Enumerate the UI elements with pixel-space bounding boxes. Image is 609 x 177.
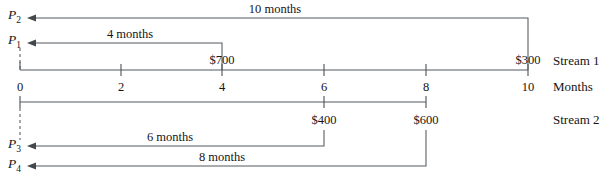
stream2-axis	[20, 96, 426, 108]
p1-arrowhead-icon	[27, 40, 36, 47]
stream2-caption: Stream 2	[553, 112, 600, 127]
p2-arrowhead-icon	[27, 15, 36, 22]
axis-unit-caption: Months	[553, 79, 593, 94]
stream1-tick-label-6: 6	[321, 80, 327, 94]
p4-arrowhead-icon	[27, 163, 36, 170]
p3-arrow-label: 6 months	[147, 130, 193, 144]
p1-arrow-path	[32, 43, 222, 70]
p3-arrow: 6 months P3	[7, 130, 324, 154]
stream1-axis: 0 2 4 6 8 10	[17, 62, 534, 94]
stream1-tick-label-8: 8	[423, 80, 429, 94]
stream1-tick-label-10: 10	[522, 80, 535, 94]
cashflow-diagram-canvas: 10 months P2 4 months P1 $700 $300 0 2 4…	[0, 0, 609, 177]
stream1-tick-label-0: 0	[17, 80, 23, 94]
p4-arrow-label: 8 months	[199, 150, 245, 164]
p2-arrow: 10 months P2	[7, 2, 528, 70]
stream1-tick-label-2: 2	[118, 80, 124, 94]
p2-arrow-path	[32, 18, 528, 70]
p1-arrow: 4 months P1	[7, 27, 222, 70]
p1-arrow-label: 4 months	[107, 27, 153, 41]
cashflow-diagram: 10 months P2 4 months P1 $700 $300 0 2 4…	[0, 0, 609, 177]
p2-symbol-label: P2	[7, 7, 21, 25]
p4-arrow: 8 months P4	[7, 130, 426, 174]
stream1-tick-label-4: 4	[219, 80, 226, 94]
cashflow-400-label: $400	[312, 113, 337, 127]
p1-symbol-label: P1	[7, 32, 21, 50]
p3-arrowhead-icon	[27, 143, 36, 150]
p2-arrow-label: 10 months	[249, 2, 302, 16]
p4-symbol-label: P4	[7, 156, 21, 174]
p3-symbol-label: P3	[7, 136, 21, 154]
cashflow-600-label: $600	[414, 113, 439, 127]
stream1-caption: Stream 1	[553, 53, 600, 68]
